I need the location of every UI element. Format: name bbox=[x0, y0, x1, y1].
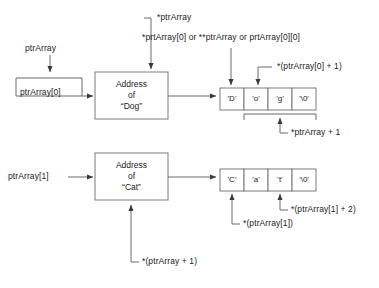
address-of-cat-line2: of bbox=[95, 171, 168, 182]
label-ptr-array-0: ptrArray[0] bbox=[20, 88, 61, 97]
cat-cell-2: 't' bbox=[268, 176, 292, 184]
diagram-lines bbox=[0, 0, 379, 288]
address-of-cat-line3: “Cat” bbox=[95, 182, 168, 193]
dog-cell-3: '\0' bbox=[292, 95, 316, 103]
label-deref-ptrarray-plus1-bottom: *(ptrArray + 1) bbox=[142, 257, 197, 266]
label-deref-elem0-plus1: *(ptrArray[0] + 1) bbox=[277, 62, 342, 71]
label-deref-combo: *prtArray[0] or **ptrArray or prtArray[0… bbox=[142, 33, 300, 42]
pointer-array-diagram: ptrArray ptrArray[0] *ptrArray *prtArray… bbox=[0, 0, 379, 288]
label-deref-ptrarray-plus1-top: *ptrArray + 1 bbox=[291, 128, 340, 137]
cat-cell-0: 'C' bbox=[220, 176, 244, 184]
cat-cell-3: '\0' bbox=[292, 176, 316, 184]
label-deref-elem1-plus2: *(ptrArray[1] + 2) bbox=[291, 205, 356, 214]
label-deref-elem1: *(ptrArray[1]) bbox=[243, 219, 293, 228]
dog-cell-2: 'g' bbox=[268, 95, 292, 103]
address-of-cat-line1: Address bbox=[95, 160, 168, 171]
label-ptr-array: ptrArray bbox=[25, 44, 56, 53]
address-of-dog-line1: Address bbox=[95, 79, 168, 90]
label-deref-ptr-array: *ptrArray bbox=[157, 13, 191, 22]
dog-cell-0: 'D' bbox=[220, 95, 244, 103]
label-ptr-array-1: ptrArray[1] bbox=[8, 172, 49, 181]
dog-cell-1: 'o' bbox=[244, 95, 268, 103]
address-of-dog-line3: “Dog” bbox=[95, 101, 168, 112]
cat-cell-1: 'a' bbox=[244, 176, 268, 184]
address-of-dog-line2: of bbox=[95, 90, 168, 101]
